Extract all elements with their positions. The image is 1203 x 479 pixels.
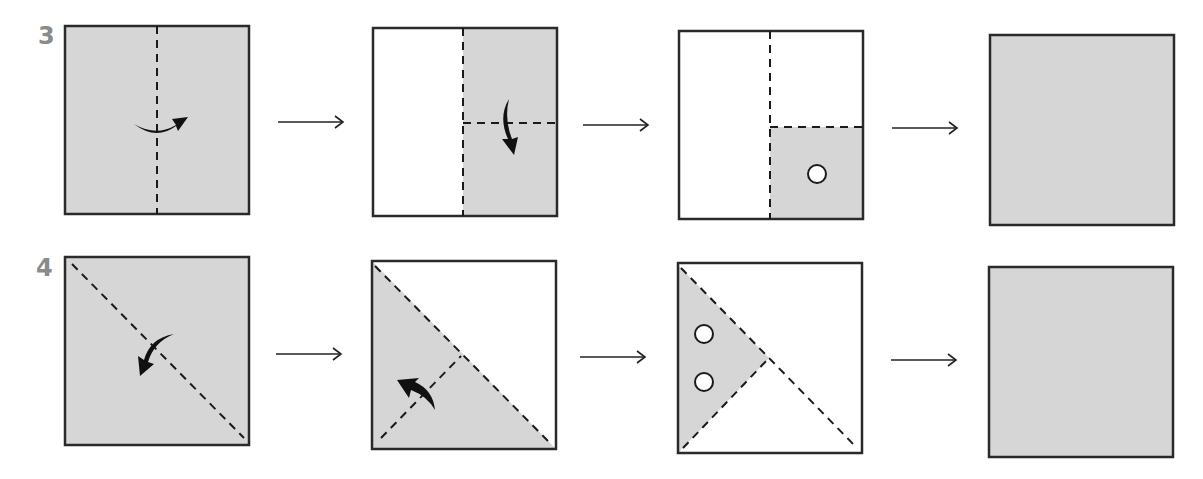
row-label-4: 4 (36, 256, 53, 280)
step-arrow-icon (278, 115, 348, 129)
row4-step3-panel (677, 262, 863, 454)
row3-answer-panel (989, 34, 1175, 226)
punched-hole-icon (695, 373, 713, 391)
row-label-3: 3 (38, 24, 55, 48)
row4-step2-panel (371, 260, 557, 450)
row4-answer-panel (988, 266, 1174, 458)
row3-step1-panel (64, 25, 250, 215)
row3-step3-panel (678, 30, 864, 220)
step-arrow-icon (891, 353, 961, 367)
step-arrow-icon (892, 121, 962, 135)
row3-step2-panel (372, 27, 558, 217)
row4-step1-panel (64, 256, 250, 446)
step-arrow-icon (580, 350, 650, 364)
step-arrow-icon (583, 118, 653, 132)
punched-hole-icon (808, 165, 826, 183)
step-arrow-icon (276, 347, 346, 361)
punched-hole-icon (695, 325, 713, 343)
